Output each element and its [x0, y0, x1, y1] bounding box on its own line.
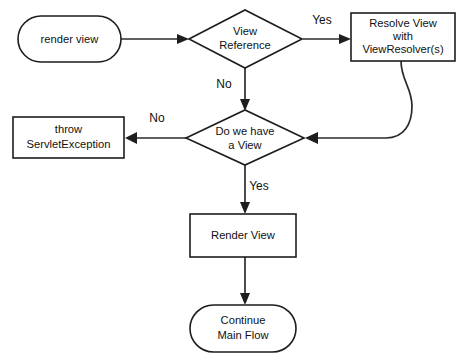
- throw-exception-label-line2: ServletException: [27, 138, 111, 150]
- arrowhead-start-to-view-reference: [177, 34, 189, 44]
- arrowhead-resolve-view-to-have-view: [305, 132, 318, 144]
- arrowhead-have-view-yes: [240, 202, 250, 214]
- resolve-view-label-line1: Resolve View: [369, 17, 437, 29]
- have-view-diamond-shape: [186, 110, 304, 165]
- node-resolve-view[interactable]: Resolve View with ViewResolver(s): [351, 13, 455, 61]
- throw-exception-label-line1: throw: [55, 123, 83, 135]
- continue-flow-label-line2: Main Flow: [218, 329, 270, 341]
- arrowhead-view-reference-yes: [339, 34, 351, 44]
- view-reference-label-line1: View: [233, 25, 258, 37]
- resolve-view-label-line3: ViewResolver(s): [362, 43, 444, 55]
- flowchart-diagram: render view View Reference Resolve View …: [0, 0, 471, 360]
- edge-label-have-view-no: No: [149, 111, 165, 125]
- edge-label-view-reference-yes: Yes: [312, 13, 332, 27]
- node-have-view-decision[interactable]: Do we have a View: [186, 110, 304, 165]
- edge-resolve-view-to-have-view: [318, 61, 412, 138]
- render-view-label: Render View: [211, 229, 276, 241]
- node-throw-servlet-exception[interactable]: throw ServletException: [13, 117, 124, 158]
- node-render-view-start[interactable]: render view: [18, 16, 121, 62]
- resolve-view-label-line2: with: [392, 30, 413, 42]
- edge-label-have-view-yes: Yes: [249, 179, 269, 193]
- start-node-label: render view: [41, 33, 100, 45]
- arrowhead-render-view-to-continue: [240, 293, 250, 305]
- edge-label-view-reference-no: No: [216, 77, 232, 91]
- node-render-view-process[interactable]: Render View: [190, 214, 296, 257]
- have-view-label-line2: a View: [228, 139, 262, 151]
- arrowhead-have-view-no: [125, 132, 137, 144]
- node-view-reference-decision[interactable]: View Reference: [189, 10, 302, 68]
- view-reference-label-line2: Reference: [219, 39, 271, 51]
- continue-flow-label-line1: Continue: [221, 314, 266, 326]
- have-view-label-line1: Do we have: [215, 125, 274, 137]
- node-continue-main-flow[interactable]: Continue Main Flow: [190, 305, 296, 352]
